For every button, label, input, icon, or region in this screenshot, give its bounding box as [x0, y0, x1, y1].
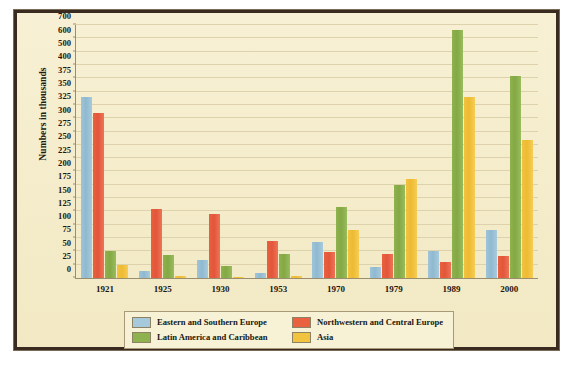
bar-group: [134, 25, 192, 278]
bar[interactable]: [312, 25, 323, 278]
bar[interactable]: [428, 25, 439, 278]
bar-group: [365, 25, 423, 278]
bar[interactable]: [151, 25, 162, 278]
bar[interactable]: [175, 25, 186, 278]
bar[interactable]: [324, 25, 335, 278]
bar-fill: [406, 179, 417, 278]
bar[interactable]: [197, 25, 208, 278]
y-axis-tick-label: 275: [58, 119, 71, 128]
bar[interactable]: [498, 25, 509, 278]
bar[interactable]: [486, 25, 497, 278]
legend-item[interactable]: Latin America and Caribbean: [132, 332, 286, 343]
y-axis-tick-label: 75: [62, 225, 71, 234]
bar-fill: [267, 241, 278, 278]
x-axis-tick-label: 1930: [211, 284, 229, 294]
bar-fill: [498, 256, 509, 278]
bar[interactable]: [279, 25, 290, 278]
bar-fill: [151, 209, 162, 278]
bar[interactable]: [406, 25, 417, 278]
bar-fill: [233, 277, 244, 278]
bar-fill: [221, 266, 232, 278]
bar[interactable]: [440, 25, 451, 278]
legend-swatch-icon: [292, 332, 311, 343]
bar[interactable]: [139, 25, 150, 278]
bar[interactable]: [117, 25, 128, 278]
bar[interactable]: [394, 25, 405, 278]
bar[interactable]: [452, 25, 463, 278]
bar-group: [249, 25, 307, 278]
y-axis-tick-label: 225: [58, 145, 71, 154]
y-axis-tick-label: 325: [58, 92, 71, 101]
bar-fill: [175, 276, 186, 278]
legend-item[interactable]: Asia: [292, 332, 446, 343]
bar[interactable]: [348, 25, 359, 278]
y-axis-tick-label: 200: [58, 159, 71, 168]
x-axis-tick-label: 1970: [327, 284, 345, 294]
y-axis-tick-label: 175: [58, 172, 71, 181]
y-axis-tick-label: 300: [58, 105, 71, 114]
bar-fill: [394, 185, 405, 278]
x-axis-tick-label: 2000: [500, 284, 518, 294]
plot-area: 0255075100125150175200225250275300325350…: [75, 25, 538, 279]
x-axis-tick-label: 1953: [269, 284, 287, 294]
bar-fill: [348, 230, 359, 278]
bar[interactable]: [464, 25, 475, 278]
bar[interactable]: [221, 25, 232, 278]
bar-fill: [291, 276, 302, 278]
bar[interactable]: [267, 25, 278, 278]
bar-group: [192, 25, 250, 278]
legend-item[interactable]: Eastern and Southern Europe: [132, 317, 286, 328]
bar-fill: [382, 254, 393, 278]
bar-fill: [522, 140, 533, 278]
chart-figure: Numbers in thousands 0255075100125150175…: [0, 0, 573, 365]
bar-group: [76, 25, 134, 278]
bar[interactable]: [255, 25, 266, 278]
y-axis-tick-label: 250: [58, 132, 71, 141]
legend-label: Eastern and Southern Europe: [157, 318, 267, 327]
bar[interactable]: [233, 25, 244, 278]
chart-legend: Eastern and Southern EuropeNorthwestern …: [124, 311, 454, 349]
bar-group: [423, 25, 481, 278]
legend-swatch-icon: [132, 332, 151, 343]
bar-fill: [163, 255, 174, 278]
bar-fill: [117, 265, 128, 278]
y-axis-tick-label: 500: [58, 39, 71, 48]
bar-fill: [197, 260, 208, 278]
bar[interactable]: [81, 25, 92, 278]
bar-fill: [428, 251, 439, 278]
bar[interactable]: [291, 25, 302, 278]
bar-fill: [209, 214, 220, 278]
y-axis-tick-label: 375: [58, 65, 71, 74]
y-axis-tick-label: 125: [58, 199, 71, 208]
bar[interactable]: [510, 25, 521, 278]
x-axis-tick-label: 1925: [154, 284, 172, 294]
bar[interactable]: [209, 25, 220, 278]
y-axis-tick-label: 400: [58, 52, 71, 61]
bar[interactable]: [382, 25, 393, 278]
x-axis-tick-label: 1989: [442, 284, 460, 294]
bar[interactable]: [370, 25, 381, 278]
bar-fill: [312, 242, 323, 278]
legend-item[interactable]: Northwestern and Central Europe: [292, 317, 446, 328]
y-axis-tick-label: 25: [62, 252, 71, 261]
bar[interactable]: [522, 25, 533, 278]
bar-fill: [81, 97, 92, 278]
y-axis-tick-label: 600: [58, 25, 71, 34]
y-axis-tick-label: 100: [58, 212, 71, 221]
y-axis-tick-label: 350: [58, 79, 71, 88]
bar-fill: [370, 267, 381, 278]
bar-fill: [452, 30, 463, 278]
y-axis-tick-label: 700: [58, 12, 71, 21]
bars-layer: [76, 25, 538, 278]
bar-fill: [336, 207, 347, 278]
bar[interactable]: [163, 25, 174, 278]
y-axis-tick-label: 0: [67, 265, 71, 274]
bar[interactable]: [93, 25, 104, 278]
plot-wrapper: Numbers in thousands 0255075100125150175…: [17, 13, 556, 303]
bar-fill: [139, 271, 150, 278]
bar-fill: [440, 262, 451, 279]
bar[interactable]: [105, 25, 116, 278]
bar[interactable]: [336, 25, 347, 278]
legend-label: Asia: [317, 333, 333, 342]
bar-fill: [324, 252, 335, 278]
